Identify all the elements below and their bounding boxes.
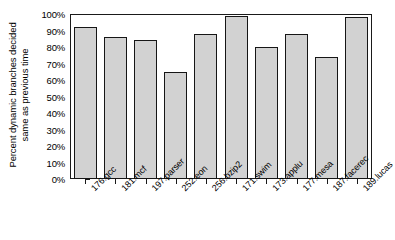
y-axis-tick-label: 10% [20,158,65,168]
x-axis-tick-mark [327,179,328,184]
x-axis-tick-mark [236,179,237,184]
bar [194,34,217,179]
y-axis-title-line-1: Percent dynamic branches decided [7,22,20,167]
x-axis-tick-mark [85,179,86,184]
bar [74,27,97,179]
bar [134,40,157,179]
bars-layer [70,14,372,179]
bar [104,37,127,179]
y-axis-tick-label: 0% [20,175,65,185]
x-axis-tick-labels: 176.gcc181.mcf197.parser252.eon256.bzip2… [70,186,380,240]
x-axis-tick-mark [357,179,358,184]
x-axis-tick-mark [146,179,147,184]
x-axis-tick-mark [176,179,177,184]
bar [285,34,308,179]
y-axis-tick-label: 70% [20,59,65,69]
x-axis-tick-mark [266,179,267,184]
y-axis-tick-labels: 100%90%80%70%60%50%40%30%20%10%0% [20,14,65,179]
x-axis-tick-mark [206,179,207,184]
y-axis-tick-label: 50% [20,92,65,102]
y-axis-tick-label: 20% [20,142,65,152]
y-axis-tick-label: 80% [20,43,65,53]
y-axis-tick-label: 90% [20,26,65,36]
y-axis-tick-label: 60% [20,76,65,86]
y-axis-tick-label: 40% [20,109,65,119]
x-axis-tick-mark [115,179,116,184]
x-axis-tick-mark [297,179,298,184]
bar [225,16,248,179]
y-axis-tick-label: 100% [20,10,65,20]
y-axis-tick-label: 30% [20,125,65,135]
